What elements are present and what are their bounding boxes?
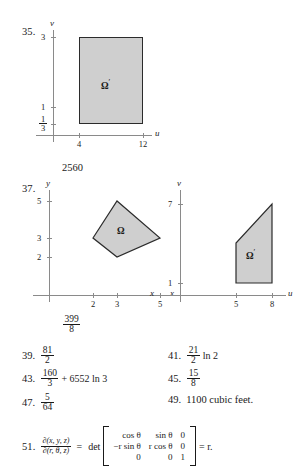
answer-49-text: 1100 cubic feet.	[186, 394, 253, 405]
figure-35: v u 3 1 1 3 4 12 Ω′	[0, 0, 200, 155]
matrix-right-bracket	[190, 426, 195, 466]
det-keyword: det	[88, 441, 100, 452]
figure-35-y-tick-label-1: 1	[38, 102, 48, 112]
answer-47: 47. 5 64	[22, 393, 55, 414]
answer-49-label: 49.	[168, 394, 181, 405]
answer-51-label: 51.	[22, 441, 35, 452]
answer-41-suffix: ln 2	[203, 350, 218, 361]
one-third-denominator: 3	[39, 124, 46, 133]
figure-35-x-tick-4	[79, 133, 80, 138]
figure-35-v-axis-label: v	[50, 18, 54, 28]
jacobian-fraction: ∂(x, y, z) ∂(r, θ, z)	[41, 437, 70, 456]
figure-35-y-tick-one-third	[51, 124, 56, 125]
matrix-row: cos θ sin θ 0	[109, 430, 189, 441]
answer-51: 51. ∂(x, y, z) ∂(r, θ, z) = det cos θ si…	[22, 426, 212, 466]
answer-49: 49.1100 cubic feet.	[168, 395, 253, 406]
figure-37-left-region-label: Ω	[117, 226, 125, 236]
figure-37-right-region-prime: ′	[254, 248, 256, 257]
answer-43-label: 43.	[22, 373, 35, 384]
matrix-cell-0-0: cos θ	[109, 430, 144, 441]
figure-35-x-tick-label-12: 12	[136, 139, 150, 149]
matrix-cell-1-1: r cos θ	[145, 441, 177, 452]
answer-45-label: 45.	[168, 373, 181, 384]
figure-37-right: v u x 7 1 5 8 Ω′	[150, 180, 301, 315]
equals-sign: =	[77, 441, 83, 452]
figure-35-y-tick-label-3: 3	[38, 32, 48, 42]
matrix-row: −r sin θ r cos θ 0	[109, 441, 189, 452]
answer-45-denominator: 8	[187, 379, 200, 389]
figure-35-x-tick-12	[143, 133, 144, 138]
figure-35-x-tick-label-4: 4	[73, 139, 85, 149]
figure-35-region-omega-prime	[79, 37, 143, 124]
matrix-cell-0-2: 0	[177, 430, 190, 441]
answers-page: 35. v u 3 1 1 3 4 12	[0, 0, 301, 472]
answer-43-denominator: 3	[41, 379, 58, 389]
matrix-cell-1-0: −r sin θ	[109, 441, 144, 452]
figure-35-region-label: Ω′	[101, 78, 110, 91]
answer-39-label: 39.	[22, 350, 35, 361]
jacobian-denominator: ∂(r, θ, z)	[41, 447, 70, 456]
answer-45: 45. 15 8	[168, 369, 201, 390]
figure-35-v-axis	[53, 30, 54, 142]
answer-41: 41. 21 2 ln 2	[168, 346, 218, 367]
figure-35-region-prime: ′	[109, 78, 111, 87]
matrix-row: 0 0 1	[109, 452, 189, 463]
answer-39: 39. 81 2	[22, 346, 55, 367]
matrix-cell-0-1: sin θ	[145, 430, 177, 441]
answer-47-denominator: 64	[41, 403, 54, 413]
figure-35-u-axis	[36, 135, 152, 136]
figure-37-right-region-label: Ω′	[246, 248, 255, 261]
answer-47-label: 47.	[22, 397, 35, 408]
problem-35-block: 35. v u 3 1 1 3 4 12	[0, 0, 301, 155]
matrix-left-bracket	[103, 426, 108, 466]
matrix-cell-2-2: 1	[177, 452, 190, 463]
figure-35-u-axis-label: u	[155, 128, 160, 138]
answer-41-denominator: 2	[187, 356, 200, 366]
figure-35-y-tick-label-one-third: 1 3	[37, 114, 49, 134]
figure-35-y-tick-3	[51, 37, 56, 38]
answer-39-denominator: 2	[41, 356, 54, 366]
answer-41-label: 41.	[168, 350, 181, 361]
figure-37-right-region-svg	[150, 180, 300, 310]
answer-43: 43. 160 3 + 6552 ln 3	[22, 369, 107, 390]
answer-value-2560: 2560	[62, 162, 83, 173]
matrix-cell-2-0: 0	[109, 452, 144, 463]
answer-37-denominator: 8	[63, 325, 80, 335]
matrix-cell-1-2: 0	[177, 441, 190, 452]
figure-37-left: y x 5 3 2 2 3 5 Ω	[0, 180, 150, 315]
figure-37-right-region-omega-prime	[236, 204, 272, 283]
jacobian-matrix: cos θ sin θ 0 −r sin θ r cos θ 0 0 0 1	[109, 430, 189, 463]
answer-43-suffix: + 6552 ln 3	[61, 373, 107, 384]
answer-value-399-over-8: 399 8	[62, 315, 81, 336]
figure-35-y-tick-1	[51, 107, 56, 108]
determinant-result: = r.	[199, 441, 212, 452]
matrix-cell-2-1: 0	[145, 452, 177, 463]
problem-37-block: 37. y x 5 3 2 2 3 5 Ω	[0, 180, 301, 315]
